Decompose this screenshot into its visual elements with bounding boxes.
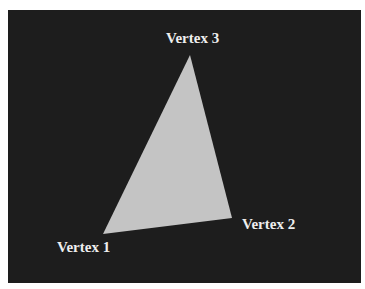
vertex-1-label: Vertex 1 [57,239,110,255]
triangle [103,55,232,234]
vertex-2-label: Vertex 2 [242,216,295,232]
vertex-3-label: Vertex 3 [166,30,219,46]
triangle-diagram: Vertex 1 Vertex 2 Vertex 3 [0,0,365,289]
